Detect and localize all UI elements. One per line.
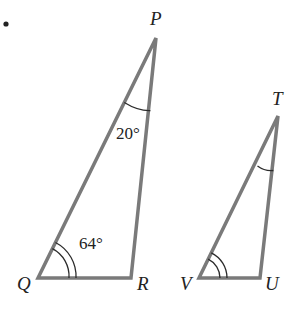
diagram-canvas: P Q R 20° 64° T V U <box>0 0 302 309</box>
vertex-label-t: T <box>272 88 284 109</box>
angle-label-p: 20° <box>116 124 140 143</box>
angle-arc-v-inner <box>208 259 220 278</box>
vertex-label-u: U <box>265 273 280 294</box>
angle-arc-q-outer <box>56 243 77 279</box>
triangle-tuv-edges <box>199 116 278 278</box>
triangle-tuv: T V U <box>180 88 284 294</box>
angle-arc-p <box>124 103 150 111</box>
angle-label-q: 64° <box>79 234 103 253</box>
vertex-label-v: V <box>180 273 194 294</box>
angle-arc-q-inner <box>52 249 69 278</box>
triangle-pqr: P Q R 20° 64° <box>17 8 162 294</box>
triangles-figure: P Q R 20° 64° T V U <box>0 0 302 309</box>
bullet-marker <box>3 21 8 26</box>
vertex-label-p: P <box>149 8 162 29</box>
vertex-label-q: Q <box>17 273 31 294</box>
vertex-label-r: R <box>136 273 149 294</box>
